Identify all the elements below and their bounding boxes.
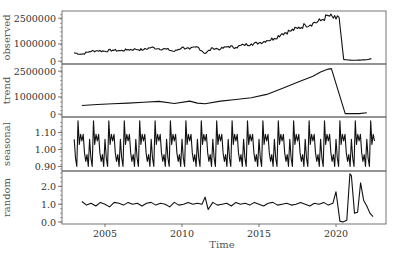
- seasonal-line: [74, 121, 374, 167]
- y-axis-title-trend: trend: [1, 76, 12, 104]
- trend-line: [82, 69, 367, 114]
- panel-trend: 010000002500000trend: [1, 64, 386, 120]
- y-tick-label: 1.0: [41, 199, 56, 210]
- panel-frame: [62, 171, 386, 224]
- panel-seasonal: 0.901.001.10seasonal: [1, 117, 386, 172]
- y-tick-label: 0.90: [35, 161, 56, 172]
- y-axis-title-observed: observed: [1, 14, 12, 61]
- x-tick-label: 2020: [324, 228, 348, 239]
- y-tick-label: 2500000: [14, 13, 56, 24]
- chart-panels: 010000002500000observed010000002500000tr…: [1, 11, 386, 228]
- panel-observed: 010000002500000observed: [1, 11, 386, 67]
- y-tick-label: 1.10: [35, 127, 56, 138]
- y-tick-label: 2.0: [41, 181, 56, 192]
- decomposition-chart: 010000002500000observed010000002500000tr…: [0, 0, 396, 257]
- panel-frame: [62, 64, 386, 117]
- y-tick-label: 1000000: [14, 38, 56, 49]
- y-tick-label: 1000000: [14, 91, 56, 102]
- y-tick-label: 0.0: [41, 217, 56, 228]
- y-tick-label: 2500000: [14, 66, 56, 77]
- x-tick-label: 2005: [93, 228, 117, 239]
- y-axis-title-seasonal: seasonal: [1, 122, 12, 166]
- x-tick-label: 2010: [170, 228, 194, 239]
- panel-random: 0.01.02.0random: [1, 171, 386, 228]
- panel-frame: [62, 11, 386, 64]
- x-tick-label: 2015: [247, 228, 271, 239]
- random-line: [82, 174, 373, 222]
- y-tick-label: 0: [50, 109, 56, 120]
- x-axis: 2005201020152020: [93, 224, 348, 239]
- observed-line: [74, 14, 371, 60]
- x-axis-title: Time: [209, 239, 234, 250]
- y-axis-title-random: random: [1, 177, 12, 217]
- y-tick-label: 1.00: [35, 144, 56, 155]
